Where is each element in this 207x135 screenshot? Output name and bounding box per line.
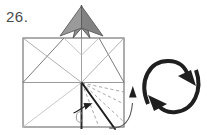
roof-ridge-right	[82, 38, 100, 55]
shaded-apex-flap	[60, 5, 103, 38]
roof-ridge-left	[64, 38, 82, 55]
dashed-fold-line-3	[82, 83, 124, 122]
dashed-fold-line-2	[82, 83, 124, 104]
upper-left-corner-crease	[23, 38, 82, 83]
diagram-page: 26.	[0, 0, 207, 135]
turn-over-leader-arrowhead	[129, 86, 137, 98]
lower-left-diagonal-crease	[23, 83, 82, 128]
fold-direction-arrow	[74, 103, 93, 113]
origami-figure	[0, 0, 207, 135]
turn-over-arrow	[144, 61, 198, 112]
roof-diagonal-left	[23, 38, 64, 83]
